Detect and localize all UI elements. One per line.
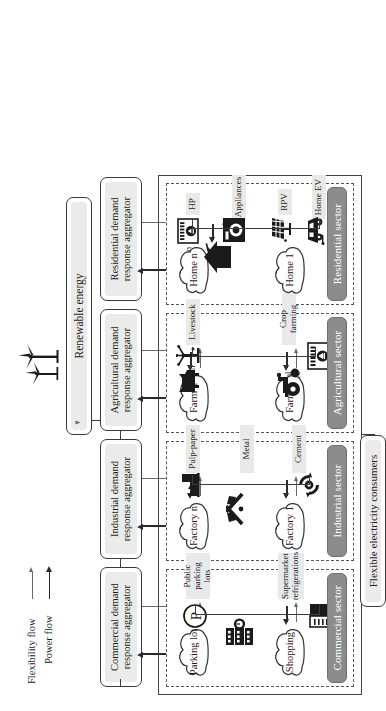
washing-machine-icon: [222, 217, 246, 243]
industrial-caption-pulp-paper: Pulp-paper: [186, 425, 200, 473]
aggregator-label-commercial: Commercial demand response aggregator: [105, 572, 137, 682]
industrial-caption-metal: Metal: [240, 425, 254, 473]
industrial-node-factory-n-label: Factory n: [172, 497, 214, 555]
aggregator-label-agricultural: Agricultural demand response aggregator: [105, 314, 137, 426]
solar-panel-icon: [268, 215, 292, 243]
conn-commercial-power-arrow: [137, 652, 143, 658]
conn-agricultural-power-arrow: [137, 396, 143, 402]
residential-caption-hp: HP: [186, 193, 200, 215]
hammer-wrench-icon: [226, 491, 256, 525]
residential-asset-bracket-bottom: [319, 219, 320, 229]
residential-node-home-1: Home 1: [268, 241, 310, 299]
renewable-energy-box: Renewable energy: [66, 197, 92, 435]
flexible-electricity-consumers-label: Flexible electricity consumers: [365, 440, 381, 602]
factory-icon: [178, 472, 202, 498]
tractor-icon: [274, 365, 302, 399]
agricultural-asset-bracket-top: [192, 347, 193, 357]
residential-node-home-1-label: Home 1: [268, 241, 310, 299]
legend-label-power: Power flow: [43, 615, 54, 664]
commercial-caption-supermarket-refrigerations: Supermarket refrigerations: [278, 553, 304, 599]
aggregator-box-agricultural: Agricultural demand response aggregator: [100, 309, 142, 431]
conn-commercial-power: [142, 653, 166, 655]
industrial-1-power-arrow: [283, 493, 289, 499]
agricultural-1-flex-arrow: [294, 348, 298, 353]
residential-caption-appliances: Appliances: [232, 175, 246, 219]
legend-arrow-flexibility-head: [29, 567, 33, 572]
industrial-node-factory-1-label: Factory 1: [268, 497, 310, 555]
conn-agricultural-power: [142, 397, 166, 399]
commercial-asset-bracket-bottom: [319, 605, 320, 615]
conn-residential-power-arrow: [137, 268, 143, 274]
commercial-node-parking-lot: Parking lot: [172, 623, 214, 681]
heat-pump-icon-residential: [176, 217, 200, 245]
electric-car-icon: [300, 213, 326, 245]
aggregator-label-industrial: Industrial demand response aggregator: [105, 444, 137, 554]
conn-commercial-flex: [142, 606, 166, 607]
conn-industrial-power-arrow: [137, 524, 143, 530]
industrial-node-factory-1: Factory 1: [268, 497, 310, 555]
industrial-node-factory-n: Factory n: [172, 497, 214, 555]
aggregator-box-residential: Residential demand response aggregator: [100, 177, 142, 301]
flexible-electricity-consumers-box: Flexible electricity consumers: [360, 435, 386, 607]
legend-arrow-power-head: [46, 566, 52, 572]
aggregator-label-residential: Residential demand response aggregator: [105, 182, 137, 296]
industrial-asset-bracket-top: [192, 475, 193, 485]
commercial-node-parking-lot-label: Parking lot: [172, 623, 214, 681]
commercial-shopping-flex-arrow: [294, 602, 298, 607]
commercial-asset-bracket: [195, 614, 320, 615]
conn-residential-power: [142, 269, 166, 271]
industrial-caption-cement: Cement: [292, 425, 306, 473]
legend-arrow-flexibility-line: [32, 571, 33, 599]
smart-home-icon: [200, 237, 236, 277]
agricultural-caption-crop-farming: Crop farming: [282, 293, 296, 345]
commercial-node-shopping-label: Shopping: [268, 623, 310, 681]
conn-industrial-power: [142, 525, 166, 527]
sector-tag-residential: Residential sector: [327, 187, 347, 301]
renewable-energy-label: Renewable energy: [71, 202, 87, 430]
legend-arrow-power-line: [49, 571, 51, 599]
sector-tag-commercial: Commercial sector: [327, 573, 347, 683]
aggregator-box-commercial: Commercial demand response aggregator: [100, 567, 142, 687]
industrial-asset-bracket: [192, 484, 310, 485]
conn-industrial-flex: [142, 478, 166, 479]
legend-label-flexibility: Flexibility flow: [26, 618, 37, 684]
residential-asset-bracket-top: [192, 219, 193, 229]
residential-asset-bracket: [192, 228, 320, 229]
commercial-shopping-power-arrow: [283, 619, 289, 625]
renewable-feed-arrow: [76, 421, 81, 425]
commercial-caption-public-parking-lots: Public parking lots: [186, 553, 210, 599]
residential-caption-rpv: RPV: [278, 189, 292, 215]
wind-turbine-icon: [18, 337, 60, 389]
mall-building-icon: [224, 615, 256, 649]
agricultural-asset-bracket-bottom: [315, 347, 316, 357]
sector-tag-industrial: Industrial sector: [327, 445, 347, 557]
agricultural-asset-bracket: [192, 356, 316, 357]
aggregator-box-industrial: Industrial demand response aggregator: [100, 439, 142, 559]
commercial-node-shopping: Shopping: [268, 623, 310, 681]
conn-residential-flex: [142, 222, 166, 223]
commercial-asset-bracket-top: [195, 605, 196, 615]
aggregator-rail: [120, 679, 121, 687]
agricultural-caption-livestock: Livestock: [186, 299, 200, 345]
conn-agricultural-flex: [142, 350, 166, 351]
sector-tag-agricultural: Agricultural sector: [327, 317, 347, 429]
industrial-asset-bracket-bottom: [309, 475, 310, 485]
livestock-cow-icon: [176, 365, 202, 397]
